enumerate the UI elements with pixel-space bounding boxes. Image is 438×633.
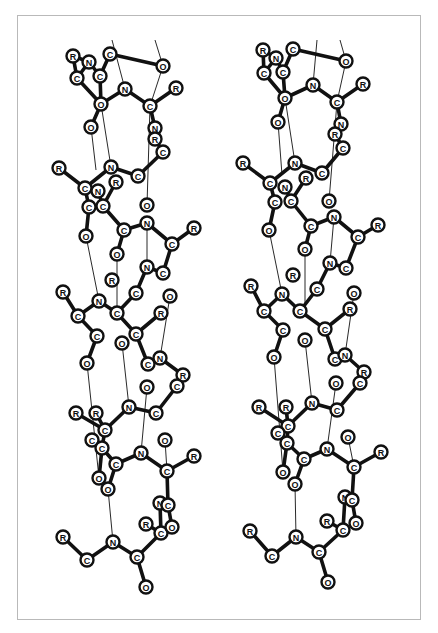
atom-label: R [240, 159, 247, 169]
atom-c: C [79, 182, 92, 195]
atom-label: R [375, 221, 382, 231]
atom-label: O [301, 336, 308, 346]
atom-o: O [268, 351, 281, 364]
hydrogen-bond-line [329, 102, 337, 201]
atom-label: O [118, 339, 125, 349]
hydrogen-bond-line [285, 98, 295, 163]
hydrogen-bond-line [305, 340, 312, 403]
atom-label: N [309, 399, 316, 409]
atom-label: C [301, 455, 308, 465]
atom-label: C [134, 553, 141, 563]
atom-label: C [74, 74, 81, 84]
atom-r: R [110, 176, 123, 189]
atom-label: C [133, 330, 140, 340]
atom-label: R [113, 178, 120, 188]
atom-label: O [325, 197, 332, 207]
atom-label: C [349, 496, 356, 506]
atom-c: C [346, 494, 359, 507]
atom-label: C [334, 406, 341, 416]
left-stereo-view: RNCCCONROCONRCRNCCNRCCONCRCOONCRCORNCCRC… [53, 40, 201, 594]
atom-c: C [130, 287, 143, 300]
atom-o: O [272, 116, 285, 129]
atom-label: R [60, 533, 67, 543]
atom-label: O [143, 383, 150, 393]
atom-label: O [87, 123, 94, 133]
atom-o: O [323, 195, 336, 208]
atom-label: C [280, 326, 287, 336]
atom-label: C [107, 50, 114, 60]
atom-n: N [141, 261, 154, 274]
atom-r: R [253, 401, 266, 414]
atom-label: C [133, 289, 140, 299]
atom-o: O [141, 199, 154, 212]
atom-c: C [313, 546, 326, 559]
atom-label: C [297, 307, 304, 317]
atom-label: O [143, 201, 150, 211]
atom-n: N [339, 349, 352, 362]
atom-c: C [157, 146, 170, 159]
atom-r: R [149, 133, 162, 146]
atom-n: N [276, 288, 289, 301]
alpha-helix-stereo-diagram: RNCCCONROCONRCRNCCNRCCONCRCOONCRCORNCCRC… [0, 0, 438, 633]
hydrogen-bond-line [86, 236, 99, 301]
atom-o: O [342, 431, 355, 444]
atom-label: R [158, 309, 165, 319]
atom-label: N [327, 259, 334, 269]
atom-r: R [287, 269, 300, 282]
atom-n: N [93, 295, 106, 308]
atom-c: C [162, 499, 175, 512]
atom-c: C [110, 458, 123, 471]
atom-n: N [307, 79, 320, 92]
atom-label: C [351, 463, 358, 473]
right-stereo-view: RNCCCONROCONRCRNCCNRCCONCRCOONCRCORNCCRC… [237, 40, 388, 589]
hydrogen-bond-line [122, 343, 129, 407]
atom-label: N [292, 159, 299, 169]
atom-r: R [257, 44, 270, 57]
atom-label: C [94, 332, 101, 342]
atom-c: C [130, 328, 143, 341]
atom-label: C [261, 69, 268, 79]
atom-label: N [293, 533, 300, 543]
atom-c: C [96, 442, 109, 455]
atom-c: C [132, 170, 145, 183]
atom-label: N [144, 263, 151, 273]
atom-n: N [270, 52, 283, 65]
atom-label: C [121, 226, 128, 236]
atom-c: C [316, 167, 329, 180]
atom-label: C [169, 240, 176, 250]
atom-label: R [332, 130, 339, 140]
hydrogen-bond-line [101, 104, 111, 167]
atom-n: N [290, 531, 303, 544]
atom-c: C [352, 231, 365, 244]
atom-label: C [319, 169, 326, 179]
atom-label: R [56, 164, 63, 174]
hydrogen-bond-line [278, 122, 282, 175]
atom-o: O [350, 517, 363, 530]
atom-label: O [97, 100, 104, 110]
atom-label: O [95, 474, 102, 484]
atom-r: R [70, 407, 83, 420]
atom-n: N [141, 217, 154, 230]
atom-label: O [82, 232, 89, 242]
atom-label: R [303, 174, 310, 184]
atom-c: C [118, 224, 131, 237]
atom-n: N [154, 352, 167, 365]
atom-c: C [311, 283, 324, 296]
atom-label: C [308, 222, 315, 232]
hydrogen-bond-line [274, 357, 283, 472]
atom-label: N [95, 187, 102, 197]
atom-c: C [281, 437, 294, 450]
atom-o: O [159, 434, 172, 447]
atom-c: C [340, 262, 353, 275]
atom-n: N [328, 211, 341, 224]
atom-o: O [299, 334, 312, 347]
atom-label: N [110, 538, 117, 548]
atom-label: O [142, 583, 149, 593]
atom-label: C [261, 307, 268, 317]
atom-label: O [344, 433, 351, 443]
atom-label: C [165, 501, 172, 511]
atom-c: C [171, 380, 184, 393]
atom-o: O [299, 243, 312, 256]
hydrogen-bond-line [269, 230, 282, 294]
atom-label: R [247, 527, 254, 537]
